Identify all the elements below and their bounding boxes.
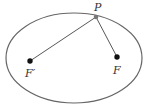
label-F: F xyxy=(112,64,121,77)
focus-F xyxy=(114,54,119,59)
segment-P-F xyxy=(96,17,117,57)
label-P: P xyxy=(93,1,102,14)
ellipse-diagram: P F′ F xyxy=(0,0,147,107)
label-Fprime: F′ xyxy=(24,67,36,80)
focus-Fprime xyxy=(27,58,32,63)
ellipse xyxy=(6,13,142,103)
point-P xyxy=(94,15,99,20)
diagram-svg: P F′ F xyxy=(0,0,147,107)
segment-P-Fprime xyxy=(30,17,96,61)
